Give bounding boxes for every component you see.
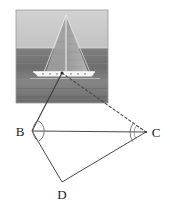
segment-D-to-C: [62, 132, 146, 182]
vertex-dot-C: [145, 131, 147, 133]
vertex-label-C: C: [152, 125, 161, 140]
segment-B-to-D: [32, 131, 62, 182]
vertex-dot-boat: [61, 72, 64, 75]
sailboat-photo: [16, 10, 108, 103]
hull-deck: [33, 72, 95, 73]
vertex-label-D: D: [57, 187, 66, 202]
figure-canvas: B C D: [0, 0, 170, 209]
segment-B-to-C: [32, 131, 146, 132]
geometry-figure: B C D: [0, 0, 170, 209]
vertex-label-B: B: [16, 124, 25, 139]
